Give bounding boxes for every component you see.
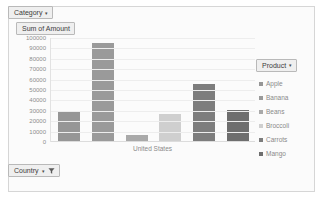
legend-item-mango: Mango [256, 147, 314, 161]
legend-item-label: Banana [266, 94, 288, 102]
legend-item-broccoli: Broccoli [256, 119, 314, 133]
y-axis-tick: 20000 [29, 118, 46, 124]
legend-swatch-icon [259, 82, 263, 86]
legend-item-banana: Banana [256, 91, 314, 105]
gridline [51, 59, 255, 60]
legend-item-label: Broccoli [266, 122, 289, 130]
y-axis-tick: 70000 [29, 66, 46, 72]
chevron-down-icon[interactable]: ▾ [289, 62, 292, 69]
legend: Product ▾ AppleBananaBeansBroccoliCarrot… [256, 54, 314, 161]
country-field-button[interactable]: Country ▾ [8, 164, 60, 177]
plot-canvas [50, 38, 255, 142]
gridline [51, 38, 255, 39]
legend-swatch-icon [259, 124, 263, 128]
legend-item-label: Carrots [266, 136, 287, 144]
bar-apple[interactable] [58, 112, 80, 142]
category-field-button[interactable]: Category ▾ [8, 6, 53, 19]
y-axis: 1000009000080000700006000050000400003000… [8, 38, 48, 142]
y-axis-tick: 40000 [29, 97, 46, 103]
legend-swatch-icon [259, 138, 263, 142]
product-field-button[interactable]: Product ▾ [256, 59, 297, 72]
legend-item-beans: Beans [256, 105, 314, 119]
y-axis-tick: 30000 [29, 108, 46, 114]
chevron-down-icon[interactable]: ▾ [45, 10, 48, 17]
axis-baseline [51, 141, 255, 142]
chevron-down-icon[interactable]: ▾ [42, 168, 45, 175]
bar-carrots[interactable] [193, 84, 215, 142]
gridline [51, 90, 255, 91]
country-field-label: Country [14, 166, 39, 175]
value-field-label: Sum of Amount [22, 24, 70, 33]
gridline [51, 111, 255, 112]
bar-broccoli[interactable] [159, 114, 181, 142]
legend-item-apple: Apple [256, 77, 314, 91]
y-axis-tick: 100000 [26, 35, 46, 41]
legend-item-label: Mango [266, 150, 286, 158]
gridline [51, 132, 255, 133]
legend-swatch-icon [259, 110, 263, 114]
legend-title-label: Product [262, 61, 286, 70]
category-field-label: Category [14, 8, 42, 17]
gridline [51, 80, 255, 81]
legend-swatch-icon [259, 96, 263, 100]
value-field-button[interactable]: Sum of Amount [16, 22, 75, 35]
filter-funnel-icon[interactable] [48, 168, 55, 175]
gridline [51, 69, 255, 70]
y-axis-tick: 80000 [29, 56, 46, 62]
legend-items: AppleBananaBeansBroccoliCarrotsMango [256, 77, 314, 161]
x-axis-label: United States [50, 145, 255, 153]
legend-swatch-icon [259, 152, 263, 156]
y-axis-tick: 90000 [29, 45, 46, 51]
y-axis-tick: 60000 [29, 77, 46, 83]
gridline [51, 48, 255, 49]
gridline [51, 121, 255, 122]
gridline [51, 100, 255, 101]
y-axis-tick: 50000 [29, 87, 46, 93]
bar-mango[interactable] [227, 110, 249, 142]
y-axis-tick: 0 [43, 139, 46, 145]
legend-item-label: Beans [266, 108, 284, 116]
y-axis-tick: 10000 [29, 129, 46, 135]
legend-item-label: Apple [266, 80, 283, 88]
legend-item-carrots: Carrots [256, 133, 314, 147]
